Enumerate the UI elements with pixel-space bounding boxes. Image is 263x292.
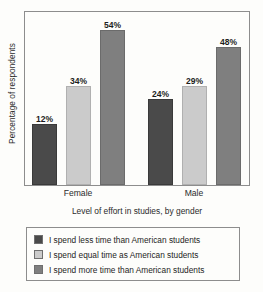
x-axis-title: Level of effort in studies, by gender	[24, 206, 250, 216]
x-tick-male: Male	[142, 188, 246, 198]
bar-female-less-time: 12%	[32, 124, 57, 185]
legend-item-label: I spend less time than American students	[49, 235, 200, 245]
y-axis-title: Percentage of respondents	[0, 0, 24, 186]
x-axis-tick-labels: Female Male	[24, 188, 250, 202]
bar-male-equal-time: 29%	[182, 86, 207, 185]
legend-item-less-time: I spend less time than American students	[34, 232, 239, 247]
bar-female-more-time: 54%	[100, 30, 125, 185]
legend-swatch-icon	[34, 250, 43, 259]
legend-swatch-icon	[34, 235, 43, 244]
bar-value-label: 54%	[104, 20, 121, 30]
legend-item-label: I spend more time than American students	[49, 265, 204, 275]
bar-female-equal-time: 34%	[66, 86, 91, 185]
bar-group-male: 24% 29% 48%	[143, 12, 247, 185]
plot-inner: 12% 34% 54% 24% 29% 48%	[25, 12, 249, 185]
bar-value-label: 48%	[220, 37, 237, 47]
bar-value-label: 24%	[152, 89, 169, 99]
legend-item-label: I spend equal time as American students	[49, 250, 198, 260]
legend-swatch-icon	[34, 265, 43, 274]
bar-value-label: 29%	[186, 76, 203, 86]
bar-male-less-time: 24%	[148, 99, 173, 185]
chart-legend: I spend less time than American students…	[26, 227, 240, 281]
bar-group-female: 12% 34% 54%	[27, 12, 131, 185]
plot-area: 12% 34% 54% 24% 29% 48%	[24, 11, 250, 186]
y-axis-title-text: Percentage of respondents	[8, 43, 17, 144]
legend-item-equal-time: I spend equal time as American students	[34, 247, 239, 262]
bar-value-label: 34%	[70, 76, 87, 86]
legend-item-more-time: I spend more time than American students	[34, 262, 239, 277]
bar-male-more-time: 48%	[216, 47, 241, 185]
x-tick-female: Female	[26, 188, 130, 198]
bar-value-label: 12%	[36, 114, 53, 124]
bar-chart-figure: Percentage of respondents 12% 34% 54% 24…	[0, 0, 263, 292]
